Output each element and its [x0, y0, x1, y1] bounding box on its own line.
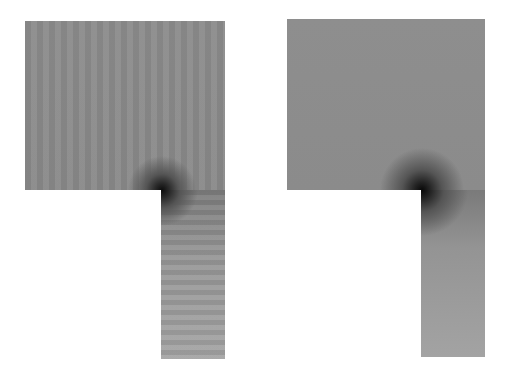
right-field-leg-region: [421, 190, 485, 357]
left-field-top-region: [25, 21, 225, 190]
right-field-top-region: [287, 19, 485, 190]
left-field-leg-region: [161, 190, 225, 359]
